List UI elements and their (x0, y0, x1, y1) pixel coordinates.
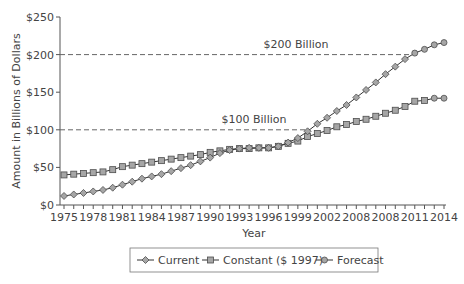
square-marker (344, 122, 350, 128)
y-tick-label: $100 (26, 124, 54, 137)
y-axis-label: Amount in Billions of Dollars (10, 33, 23, 189)
diamond-marker (138, 175, 145, 182)
x-tick-label: 1996 (255, 211, 283, 224)
legend-label-constant: Constant ($ 1997) (223, 254, 323, 267)
square-marker (392, 107, 398, 113)
square-marker (100, 169, 106, 175)
square-marker (139, 161, 145, 167)
diamond-marker (197, 158, 204, 165)
square-marker (373, 113, 379, 119)
circle-marker (431, 42, 437, 48)
y-tick-label: $150 (26, 86, 54, 99)
diamond-marker (148, 173, 155, 180)
x-tick-label: 1987 (167, 211, 195, 224)
circle-marker (441, 40, 447, 46)
x-tick-label: 1999 (284, 211, 312, 224)
square-marker (178, 155, 184, 161)
diamond-marker (99, 186, 106, 193)
x-tick-label: 1978 (79, 211, 107, 224)
diamond-marker (109, 184, 116, 191)
y-tick-label: $50 (33, 161, 54, 174)
x-tick-label: 1990 (196, 211, 224, 224)
circle-marker (412, 50, 418, 56)
square-marker (119, 164, 125, 170)
diamond-marker (90, 188, 97, 195)
square-marker (412, 98, 418, 104)
square-marker (80, 170, 86, 176)
x-tick-label: 2011 (401, 211, 429, 224)
circle-marker (422, 46, 428, 52)
diamond-marker (70, 191, 77, 198)
square-marker (149, 159, 155, 165)
square-marker (158, 158, 164, 164)
annotation-200-billion: $200 Billion (264, 38, 329, 51)
square-marker (363, 116, 369, 122)
square-marker (197, 152, 203, 158)
square-marker (90, 170, 96, 176)
x-tick-label: 1984 (138, 211, 166, 224)
square-marker (334, 124, 340, 130)
square-marker (188, 153, 194, 159)
annotation-100-billion: $100 Billion (222, 113, 287, 126)
x-tick-label: 2014 (430, 211, 458, 224)
square-marker (383, 110, 389, 116)
diamond-marker (158, 171, 165, 178)
diamond-marker (80, 189, 87, 196)
square-marker (110, 167, 116, 173)
circle-marker (441, 95, 447, 101)
diamond-marker (324, 114, 331, 121)
diamond-marker (333, 108, 340, 115)
y-tick-label: $200 (26, 49, 54, 62)
chart-container: $0$50$100$150$200$250 197519781981198419… (0, 0, 464, 284)
square-marker-icon (208, 257, 214, 263)
square-marker (168, 156, 174, 162)
legend: Current Constant ($ 1997) Forecast (130, 248, 384, 272)
legend-label-forecast: Forecast (337, 254, 384, 267)
y-tick-label: $250 (26, 11, 54, 24)
square-marker (129, 162, 135, 168)
diamond-marker (119, 181, 126, 188)
x-tick-label: 1993 (225, 211, 253, 224)
line-chart: $0$50$100$150$200$250 197519781981198419… (0, 0, 464, 284)
x-axis: 1975197819811984198719901993199619992002… (50, 205, 458, 224)
x-axis-label: Year (241, 227, 266, 240)
x-tick-label: 2008 (372, 211, 400, 224)
legend-label-current: Current (158, 254, 200, 267)
diamond-marker (129, 178, 136, 185)
square-marker (314, 131, 320, 137)
y-axis: $0$50$100$150$200$250 (26, 11, 60, 212)
circle-marker (431, 95, 437, 101)
x-tick-label: 1975 (50, 211, 78, 224)
square-marker (422, 97, 428, 103)
diamond-marker (187, 162, 194, 169)
square-marker (71, 171, 77, 177)
square-marker (353, 119, 359, 125)
square-marker (402, 103, 408, 109)
diamond-marker (168, 168, 175, 175)
diamond-marker (177, 165, 184, 172)
square-marker (61, 172, 67, 178)
x-tick-label: 1981 (108, 211, 136, 224)
square-marker (324, 128, 330, 134)
x-tick-label: 2002 (313, 211, 341, 224)
circle-marker-icon (322, 257, 328, 263)
x-tick-label: 2008 (342, 211, 370, 224)
diamond-marker (61, 192, 68, 199)
